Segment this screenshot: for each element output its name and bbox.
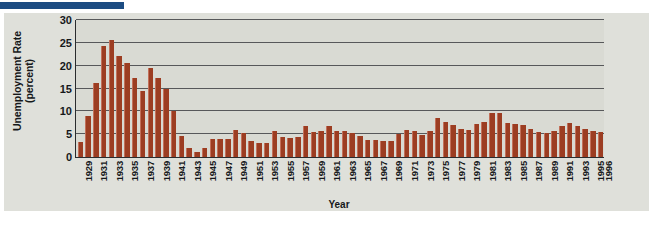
- x-axis-tick-labels: 1929193119331935193719391941194319451947…: [75, 161, 603, 199]
- x-tick-label: 1989: [549, 161, 560, 181]
- x-tick-label: 1945: [207, 161, 218, 181]
- bar: [489, 113, 495, 157]
- bar: [412, 131, 418, 157]
- x-tick-label: 1993: [580, 161, 591, 181]
- x-axis-title: Year: [75, 199, 603, 210]
- bar-series: [76, 20, 604, 157]
- bar: [124, 63, 130, 157]
- y-tick-label: 0: [66, 151, 72, 163]
- bar: [217, 139, 223, 157]
- plot-area: [75, 20, 604, 158]
- bar: [450, 125, 456, 157]
- y-axis-tick-labels: 051015202530: [48, 13, 72, 211]
- bar: [311, 132, 317, 157]
- x-tick-label: 1983: [502, 161, 513, 181]
- bar: [520, 125, 526, 157]
- x-tick-label: 1979: [471, 161, 482, 181]
- bar: [474, 124, 480, 157]
- bar: [357, 136, 363, 157]
- x-tick-label: 1937: [145, 161, 156, 181]
- bar: [598, 132, 604, 157]
- y-tick-label: 30: [60, 14, 72, 26]
- x-tick-label: 1961: [331, 161, 342, 181]
- x-tick-label: 1973: [425, 161, 436, 181]
- bar: [318, 131, 324, 157]
- bar: [396, 134, 402, 157]
- bar: [272, 131, 278, 157]
- x-tick-label: 1943: [192, 161, 203, 181]
- x-tick-label: 1991: [564, 161, 575, 181]
- x-tick-label: 1933: [114, 161, 125, 181]
- bar: [365, 140, 371, 157]
- bar: [497, 113, 503, 157]
- bar: [287, 138, 293, 157]
- x-tick-label: 1941: [176, 161, 187, 181]
- x-tick-label: 1967: [378, 161, 389, 181]
- bar: [419, 135, 425, 157]
- bar: [140, 91, 146, 157]
- bar: [171, 111, 177, 157]
- bar: [544, 133, 550, 157]
- y-axis-title-sub: (percent): [23, 6, 35, 156]
- bar: [163, 89, 169, 157]
- bar: [466, 130, 472, 157]
- x-tick-label: 1931: [98, 161, 109, 181]
- bar: [590, 131, 596, 157]
- x-tick-label: 1985: [518, 161, 529, 181]
- bar: [155, 78, 161, 157]
- bar: [256, 143, 262, 157]
- x-tick-label: 1935: [129, 161, 140, 181]
- bar: [349, 133, 355, 157]
- bar: [380, 141, 386, 157]
- y-tick-label: 10: [60, 105, 72, 117]
- bar: [551, 131, 557, 157]
- y-tick-label: 25: [60, 37, 72, 49]
- bar: [264, 143, 270, 157]
- bar: [295, 137, 301, 157]
- bar: [303, 126, 309, 157]
- chart-figure-page: Unemployment Rate (percent) 051015202530…: [0, 0, 655, 233]
- y-axis-title-main: Unemployment Rate: [11, 31, 23, 131]
- bar: [443, 122, 449, 157]
- bar: [388, 141, 394, 157]
- x-tick-label: 1969: [393, 161, 404, 181]
- x-tick-label: 1949: [238, 161, 249, 181]
- figure-panel: Unemployment Rate (percent) 051015202530…: [4, 13, 649, 211]
- bar: [233, 130, 239, 157]
- bar: [435, 118, 441, 157]
- bar: [528, 129, 534, 157]
- bar: [148, 68, 154, 157]
- x-tick-label: 1987: [533, 161, 544, 181]
- bar: [458, 129, 464, 157]
- x-tick-label: 1965: [362, 161, 373, 181]
- x-tick-label: 1977: [456, 161, 467, 181]
- bar: [248, 141, 254, 157]
- bar: [210, 139, 216, 157]
- bar: [326, 126, 332, 157]
- x-tick-label: 1947: [223, 161, 234, 181]
- bar: [186, 148, 192, 157]
- y-axis-title: Unemployment Rate (percent): [11, 6, 35, 156]
- x-tick-label: 1929: [83, 161, 94, 181]
- bar: [132, 78, 138, 157]
- bar: [101, 46, 107, 157]
- x-tick-label: 1963: [347, 161, 358, 181]
- x-tick-label: 1955: [285, 161, 296, 181]
- y-tick-label: 5: [66, 128, 72, 140]
- x-tick-label: 1951: [254, 161, 265, 181]
- bar: [280, 137, 286, 157]
- bar: [78, 142, 84, 157]
- bar: [505, 123, 511, 157]
- x-tick-label: 1953: [269, 161, 280, 181]
- x-tick-label: 1959: [316, 161, 327, 181]
- x-tick-label: 1996: [603, 161, 614, 181]
- bar: [582, 129, 588, 157]
- x-tick-label: 1957: [300, 161, 311, 181]
- bar: [109, 40, 115, 157]
- bar: [512, 124, 518, 157]
- bar: [225, 139, 231, 157]
- bar: [179, 136, 185, 157]
- x-tick-label: 1975: [440, 161, 451, 181]
- bar: [116, 56, 122, 157]
- bar: [404, 130, 410, 157]
